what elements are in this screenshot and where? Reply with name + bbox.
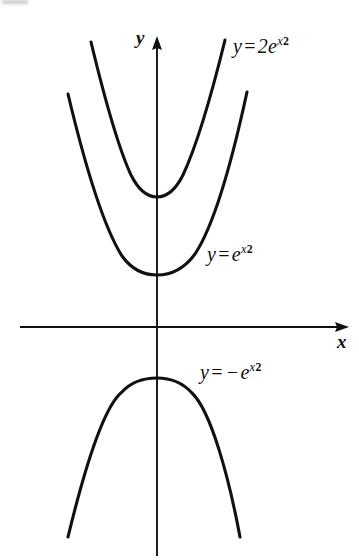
y-axis-arrowhead-icon: [152, 36, 162, 50]
curve-2exp: [91, 40, 225, 197]
plot-canvas: [0, 0, 359, 560]
curve-label-negexp-lhs: y: [200, 361, 209, 383]
x-axis-label: x: [337, 332, 347, 351]
exponential-curves-figure: y=2ex2 y=ex2 y=−ex2 y x: [0, 0, 359, 560]
curve-label-exp-exponent: x2: [241, 242, 253, 256]
curve-label-exp-base: e: [232, 243, 241, 265]
curve-label-negexp: y=−ex2: [200, 362, 262, 382]
curve-label-2exp-exponent: x2: [277, 34, 289, 48]
curve-label-exp-exponent-pow: 2: [247, 243, 253, 256]
y-axis: [152, 36, 162, 556]
curve-negexp: [68, 378, 240, 537]
curve-label-exp-equals: =: [216, 243, 232, 265]
curve-label-2exp-exponent-pow: 2: [283, 35, 289, 48]
curve-label-negexp-exponent-pow: 2: [255, 361, 261, 374]
curve-label-2exp-lhs: y: [233, 35, 242, 57]
curve-label-2exp-coefficient: 2: [258, 35, 268, 57]
x-axis: [20, 322, 349, 332]
curve-label-2exp-base: e: [268, 35, 277, 57]
curve-label-exp-lhs: y: [207, 243, 216, 265]
curve-label-negexp-base: e: [240, 361, 249, 383]
y-axis-label: y: [136, 28, 144, 47]
curve-label-2exp: y=2ex2: [233, 36, 289, 56]
curve-label-negexp-sign: −: [225, 361, 241, 383]
curve-label-2exp-equals: =: [242, 35, 258, 57]
curve-label-negexp-equals: =: [209, 361, 225, 383]
curve-label-exp: y=ex2: [207, 244, 253, 264]
curve-label-negexp-exponent: x2: [250, 360, 262, 374]
